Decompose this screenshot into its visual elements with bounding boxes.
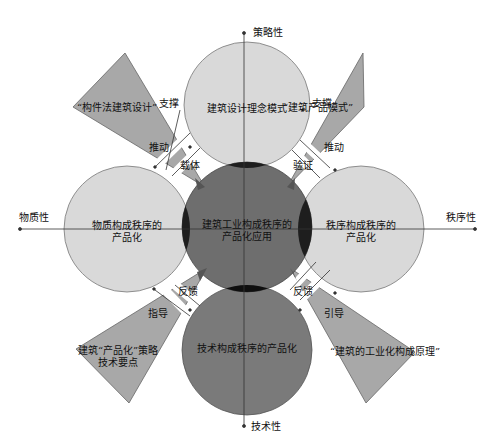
circle-center-line2: 产品化应用 — [202, 231, 292, 243]
circle-left-line1: 物质构成秩序的 — [92, 220, 162, 232]
relation-tl-carrier: 载体 — [180, 160, 200, 172]
circle-right-label: 秩序构成秩序的 产品化 — [326, 220, 396, 244]
relation-tl-support: 支撑 — [159, 98, 179, 110]
relation-br-guide: 引导 — [324, 308, 344, 320]
circle-top-label: 建筑设计理念模式 — [207, 103, 287, 115]
circle-center-label: 建筑工业构成秩序的 产品化应用 — [202, 219, 292, 243]
relation-tr-verify: 验证 — [293, 160, 313, 172]
triangle-top-left-label: “构件法建筑设计” — [77, 102, 157, 114]
triangle-bottom-left-line2: 技术要点 — [78, 357, 158, 369]
relation-tl-drive: 推动 — [149, 142, 169, 154]
axis-label-left: 物质性 — [19, 212, 49, 224]
relation-tr-support: 支撑 — [312, 98, 332, 110]
relation-bl-guide: 指导 — [148, 308, 168, 320]
relation-bl-feedback: 反馈 — [178, 286, 198, 298]
circle-right-line1: 秩序构成秩序的 — [326, 220, 396, 232]
circle-center-line1: 建筑工业构成秩序的 — [202, 219, 292, 231]
triangle-bottom-left-label: 建筑“产品化”策略 技术要点 — [78, 345, 158, 369]
circle-left-line2: 产品化 — [92, 232, 162, 244]
circle-bottom-label: 技术构成秩序的产品化 — [197, 343, 297, 355]
axis-label-right: 秩序性 — [446, 212, 476, 224]
triangle-bottom-left-line1: 建筑“产品化”策略 — [78, 345, 158, 357]
relation-br-feedback: 反馈 — [293, 286, 313, 298]
triangle-bottom-right-label: “建筑的工业化构成原理” — [330, 346, 440, 358]
circle-left-label: 物质构成秩序的 产品化 — [92, 220, 162, 244]
axis-label-bottom: 技术性 — [251, 421, 281, 433]
relation-tr-drive: 推动 — [324, 142, 344, 154]
circle-right-line2: 产品化 — [326, 232, 396, 244]
axis-label-top: 策略性 — [253, 27, 283, 39]
